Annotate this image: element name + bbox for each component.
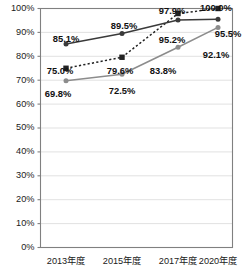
data-point-marker (216, 17, 221, 22)
chart-background (0, 0, 248, 274)
data-value-label: 97.9% (159, 5, 186, 16)
y-axis-tick-label: 100% (11, 3, 35, 13)
y-axis-tick-label: 0% (21, 242, 34, 252)
y-axis-tick-label: 90% (16, 27, 34, 37)
line-chart: 100%90%80%70%60%50%40%30%20%10%0% 85.1%8… (0, 0, 248, 274)
y-axis-tick-label: 50% (16, 122, 34, 132)
x-axis-tick-label: 2015年度 (103, 255, 141, 266)
y-axis-tick-label: 10% (16, 218, 34, 228)
data-value-label: 69.8% (45, 88, 72, 99)
y-axis-tick-label: 70% (16, 75, 34, 85)
data-point-marker (176, 17, 181, 22)
data-value-label: 89.5% (111, 20, 138, 31)
x-axis-tick-label: 2013年度 (47, 255, 85, 266)
x-axis-tick-label: 2020年度 (199, 255, 237, 266)
data-point-marker (119, 55, 124, 60)
data-point-marker (120, 31, 125, 36)
y-axis-tick-label: 20% (16, 194, 34, 204)
y-axis-tick-label: 80% (16, 51, 34, 61)
y-axis-tick-label: 30% (16, 170, 34, 180)
data-value-label: 100.0% (200, 2, 232, 13)
data-value-label: 95.2% (159, 34, 186, 45)
data-value-label: 83.8% (150, 65, 177, 76)
data-value-label: 85.1% (53, 33, 80, 44)
data-value-label: 75.0% (47, 65, 74, 76)
y-axis-tick-label: 60% (16, 99, 34, 109)
y-axis-tick-label: 40% (16, 146, 34, 156)
data-value-label: 72.5% (109, 85, 136, 96)
data-value-label: 95.5% (215, 28, 242, 39)
data-value-label: 79.6% (107, 65, 134, 76)
x-axis-tick-label: 2017年度 (159, 255, 197, 266)
chart-canvas: 100%90%80%70%60%50%40%30%20%10%0% 85.1%8… (0, 0, 248, 274)
data-value-label: 92.1% (203, 49, 230, 60)
data-point-marker (64, 78, 69, 83)
